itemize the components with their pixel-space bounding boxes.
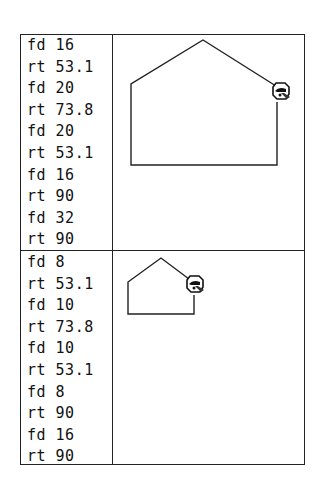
house-drawing-large (131, 40, 277, 165)
turtle-icon (273, 83, 290, 99)
turtle-graphics-canvas (0, 0, 330, 498)
house-drawing-small (128, 258, 194, 314)
turtle-icon (187, 276, 204, 292)
